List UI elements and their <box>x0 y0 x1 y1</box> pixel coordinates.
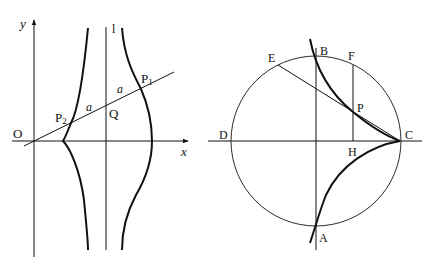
segment-a-label-upper: a <box>117 82 123 96</box>
label-p: P <box>357 101 364 115</box>
origin-label: O <box>13 126 22 141</box>
segment-a-label-lower: a <box>86 100 92 114</box>
label-b: B <box>320 44 328 58</box>
label-a: A <box>319 231 328 245</box>
label-e: E <box>268 51 275 65</box>
line-l-label: l <box>112 22 116 36</box>
diagram-canvas: y x O l Q P1 P2 a a B F E P D C H A <box>0 0 436 266</box>
conchoid-figure: y x O l Q P1 P2 a a <box>12 16 188 257</box>
label-d: D <box>219 128 228 142</box>
point-q-label: Q <box>109 106 119 121</box>
conchoid-outer-branch <box>122 28 152 250</box>
label-f: F <box>348 49 355 63</box>
y-axis-label: y <box>18 16 26 31</box>
conchoid-inner-branch <box>63 28 88 250</box>
segment-ec <box>278 65 400 141</box>
x-axis-label: x <box>180 144 187 159</box>
cissoid-figure: B F E P D C H A <box>208 39 422 250</box>
point-p1-label: P1 <box>141 71 153 87</box>
label-h: H <box>348 145 357 159</box>
label-c: C <box>405 128 413 142</box>
point-p2-label: P2 <box>55 110 67 126</box>
